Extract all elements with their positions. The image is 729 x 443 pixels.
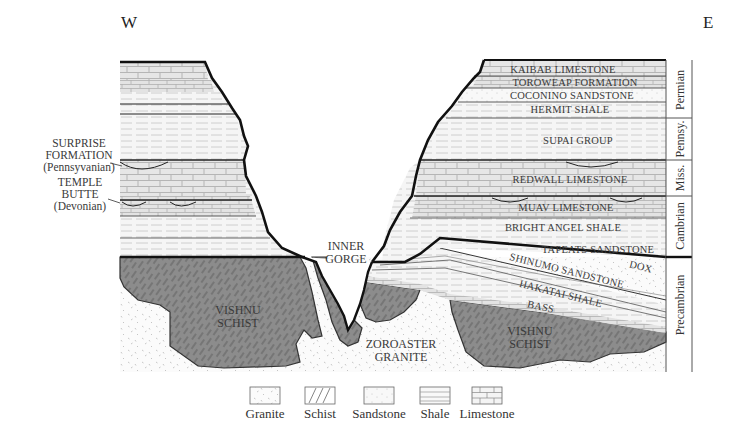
svg-text:(Pennsyvanian): (Pennsyvanian) bbox=[43, 161, 115, 174]
svg-text:VISHNU: VISHNU bbox=[215, 303, 261, 317]
label-muav: MUAV LIMESTONE bbox=[518, 202, 613, 213]
legend-item-shale: Shale bbox=[420, 387, 450, 421]
label-kaibab: KAIBAB LIMESTONE bbox=[510, 64, 615, 75]
label-coconino: COCONINO SANDSTONE bbox=[510, 90, 634, 101]
svg-text:BUTTE: BUTTE bbox=[61, 188, 98, 200]
left-canyon-wall bbox=[120, 62, 305, 257]
period-precambrian: Precambrian bbox=[673, 275, 687, 336]
period-cambrian: Cambrian bbox=[673, 202, 687, 249]
svg-text:VISHNU: VISHNU bbox=[507, 324, 553, 338]
svg-text:(Devonian): (Devonian) bbox=[54, 200, 107, 213]
label-toroweap: TOROWEAP FORMATION bbox=[512, 77, 637, 88]
label-hermit: HERMIT SHALE bbox=[531, 104, 610, 115]
label-redwall: REDWALL LIMESTONE bbox=[512, 174, 627, 185]
legend-item-schist: Schist bbox=[304, 387, 336, 421]
svg-text:Schist: Schist bbox=[304, 406, 336, 421]
annotation-temple-butte: TEMPLE BUTTE (Devonian) bbox=[54, 176, 120, 213]
svg-text:Granite: Granite bbox=[246, 406, 285, 421]
svg-text:ZOROASTER: ZOROASTER bbox=[366, 337, 437, 351]
svg-text:Shale: Shale bbox=[421, 406, 450, 421]
west-label: W bbox=[121, 13, 138, 32]
label-supai: SUPAI GROUP bbox=[543, 135, 613, 146]
grand-canyon-cross-section: W E bbox=[0, 0, 729, 443]
east-label: E bbox=[703, 13, 713, 32]
legend-item-granite: Granite bbox=[246, 387, 285, 421]
annotation-surprise-formation: SURPRISE FORMATION (Pennsyvanian) bbox=[43, 137, 122, 174]
svg-text:TEMPLE: TEMPLE bbox=[58, 176, 103, 188]
label-bright-angel: BRIGHT ANGEL SHALE bbox=[505, 222, 621, 233]
legend-item-limestone: Limestone bbox=[460, 387, 515, 421]
period-permian: Permian bbox=[673, 70, 687, 110]
svg-text:GRANITE: GRANITE bbox=[375, 350, 428, 364]
legend-item-sandstone: Sandstone bbox=[352, 387, 406, 421]
period-mississippian: Miss. bbox=[673, 165, 687, 191]
svg-text:Sandstone: Sandstone bbox=[352, 406, 406, 421]
legend: Granite Schist Sandstone Shale Limestone bbox=[246, 387, 515, 421]
label-inner-gorge: INNER GORGE bbox=[325, 239, 366, 266]
period-column: Permian Pennsy. Miss. Cambrian Precambri… bbox=[666, 60, 692, 372]
svg-text:Limestone: Limestone bbox=[460, 406, 515, 421]
label-vishnu-schist-left: VISHNU SCHIST bbox=[215, 303, 261, 330]
period-pennsylvanian: Pennsy. bbox=[673, 121, 687, 158]
label-vishnu-schist-right: VISHNU SCHIST bbox=[507, 324, 553, 351]
svg-text:SCHIST: SCHIST bbox=[217, 316, 259, 330]
svg-text:INNER: INNER bbox=[328, 239, 365, 253]
svg-text:SURPRISE: SURPRISE bbox=[52, 137, 106, 149]
svg-text:SCHIST: SCHIST bbox=[509, 337, 551, 351]
label-zoroaster-granite: ZOROASTER GRANITE bbox=[366, 337, 437, 364]
svg-text:GORGE: GORGE bbox=[325, 252, 366, 266]
svg-text:FORMATION: FORMATION bbox=[45, 149, 113, 161]
label-tapeats: TAPEATS SANDSTONE bbox=[542, 244, 654, 255]
